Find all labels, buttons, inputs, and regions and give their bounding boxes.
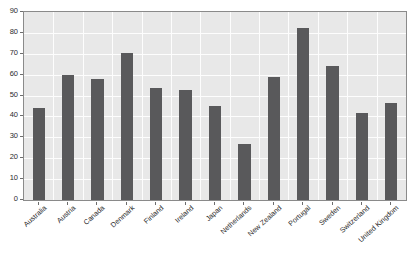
- chart-title: [0, 0, 413, 1]
- x-axis-tick-mark: [38, 202, 39, 205]
- y-axis-tick-label: 30: [10, 133, 18, 141]
- y-axis-tick-label: 40: [10, 112, 18, 120]
- x-axis-tick-label: Denmark: [109, 204, 135, 229]
- x-axis-tick-label: Australia: [22, 204, 48, 228]
- bar: [62, 75, 74, 200]
- bar: [91, 79, 103, 200]
- x-axis-tick-mark: [273, 202, 274, 205]
- y-axis-tick-label: 90: [10, 7, 18, 15]
- x-axis-tick-mark: [361, 202, 362, 205]
- y-axis-tick-label: 60: [10, 70, 18, 78]
- x-axis-tick-label: Ireland: [173, 204, 194, 224]
- bar: [238, 144, 250, 200]
- bar: [297, 28, 309, 200]
- y-axis-tick-label: 80: [10, 28, 18, 36]
- y-axis-tick-label: 10: [10, 174, 18, 182]
- bar: [121, 53, 133, 200]
- x-axis-tick-label: Canada: [83, 204, 107, 226]
- x-axis: AustraliaAustriaCanadaDenmarkFinlandIrel…: [23, 202, 407, 270]
- bar: [385, 103, 397, 200]
- x-axis-tick-label: Finland: [143, 204, 165, 225]
- y-axis: 0102030405060708090: [0, 11, 23, 201]
- x-axis-tick-label: Portugal: [287, 204, 312, 227]
- bar: [209, 106, 221, 200]
- y-axis-tick-label: 70: [10, 49, 18, 57]
- bar: [268, 77, 280, 200]
- x-axis-tick-label: Sweden: [317, 204, 341, 227]
- bar: [356, 113, 368, 200]
- bar: [150, 88, 162, 200]
- x-axis-tick-mark: [126, 202, 127, 205]
- x-axis-tick-label: Japan: [204, 204, 223, 222]
- bar-chart: 0102030405060708090 AustraliaAustriaCana…: [0, 0, 413, 270]
- x-axis-tick-label: Austria: [55, 204, 76, 224]
- plot-area: [23, 11, 407, 201]
- y-axis-tick-label: 50: [10, 91, 18, 99]
- bars-layer: [24, 12, 406, 200]
- bar: [179, 90, 191, 200]
- y-axis-tick-label: 0: [14, 195, 18, 203]
- y-axis-tick-label: 20: [10, 153, 18, 161]
- x-axis-tick-mark: [185, 202, 186, 205]
- x-axis-tick-mark: [332, 202, 333, 205]
- bar: [33, 108, 45, 200]
- bar: [326, 66, 338, 200]
